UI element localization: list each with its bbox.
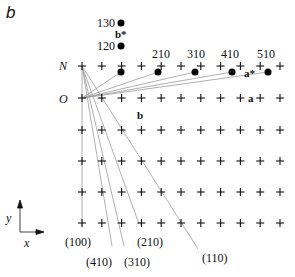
axes-indicator <box>18 200 45 235</box>
dot-210 <box>118 69 125 76</box>
panel-label: b <box>6 3 15 22</box>
label-130: 130 <box>97 16 115 30</box>
plane-label-100: (100) <box>65 235 91 249</box>
lattice-points <box>78 62 284 227</box>
line-to-410-dot <box>82 72 195 98</box>
label-410: 410 <box>221 47 239 61</box>
label-310: 310 <box>187 47 205 61</box>
label-b-star: b* <box>115 28 127 40</box>
dot-a-star <box>265 69 272 76</box>
line-to-310-dot <box>82 72 158 98</box>
label-210: 210 <box>152 47 170 61</box>
row-label-o: O <box>59 92 68 106</box>
plane-label-410: (410) <box>86 255 112 269</box>
line-to-510-dot <box>82 72 232 98</box>
plane-label-210: (210) <box>137 235 163 249</box>
label-120: 120 <box>97 39 115 53</box>
label-a-star: a* <box>244 67 256 79</box>
x-axis-arrow-icon <box>36 230 44 235</box>
label-b: b <box>137 109 143 121</box>
axis-label-x: x <box>23 236 30 250</box>
dot-130 <box>118 20 125 27</box>
plane-label-310: (310) <box>124 255 150 269</box>
dot-410 <box>192 69 199 76</box>
crystal-lattice-diagram: b N O 130 b* 120 210 310 410 510 a* a <box>0 0 295 277</box>
label-510: 510 <box>257 47 275 61</box>
dot-310 <box>155 69 162 76</box>
axis-label-y: y <box>5 211 12 225</box>
label-a: a <box>248 92 254 104</box>
dot-120 <box>118 43 125 50</box>
dot-510 <box>229 69 236 76</box>
plane-label-110: (110) <box>202 251 228 265</box>
y-axis-arrow-icon <box>18 200 23 208</box>
row-label-n: N <box>58 59 68 73</box>
